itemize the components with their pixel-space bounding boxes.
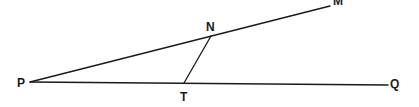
- label-m: M: [333, 0, 343, 8]
- ray-pm: [30, 6, 330, 82]
- segment-nt: [184, 36, 211, 83]
- geometry-diagram: P M N T Q: [0, 0, 419, 107]
- ray-pq: [30, 82, 388, 85]
- label-t: T: [180, 90, 188, 104]
- label-p: P: [17, 76, 25, 90]
- label-n: N: [206, 20, 215, 34]
- label-q: Q: [390, 77, 399, 91]
